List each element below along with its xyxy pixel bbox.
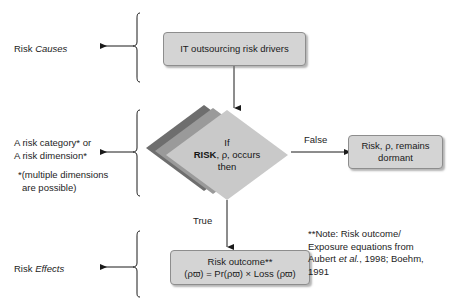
stage-label-category: A risk category* or A risk dimension*: [14, 136, 132, 162]
node-risk-dormant-label: Risk, ρ, remainsdormant: [361, 140, 429, 164]
node-decision-label: IfRISK, ρ, occursthen: [166, 110, 288, 200]
edge-label-false: False: [304, 134, 327, 146]
node-risk-dormant[interactable]: Risk, ρ, remainsdormant: [348, 135, 443, 169]
note-line3: Aubert et al., 1998; Boehm,: [308, 253, 448, 266]
note-line4: 1991: [308, 266, 448, 279]
node-risk-drivers[interactable]: IT outsourcing risk drivers: [163, 32, 306, 66]
node-risk-dormant-line2: dormant: [378, 152, 413, 163]
stage-label-effects-italic: Effects: [35, 263, 64, 274]
edge-label-true: True: [193, 215, 212, 227]
stage-label-effects-plain: Risk: [14, 263, 35, 274]
node-decision-text: IfRISK, ρ, occursthen: [194, 137, 261, 173]
node-risk-dormant-line1: Risk, ρ, remains: [361, 140, 429, 151]
stage-label-category-footnote: *(multiple dimensions are possible): [18, 168, 136, 194]
stage-label-category-line2: A risk dimension*: [14, 149, 132, 162]
stage-label-effects: Risk Effects: [14, 263, 64, 275]
stage-label-causes-italic: Causes: [35, 43, 67, 54]
node-decision-line2-rest: , ρ, occurs: [216, 149, 260, 160]
note-line3-post: , 1998; Boehm,: [359, 253, 423, 264]
brace-effects: [133, 231, 140, 297]
brace-causes: [133, 13, 140, 82]
node-decision-line1: If: [224, 137, 229, 148]
category-footnote-line1: *(multiple dimensions: [18, 168, 136, 181]
node-decision-bold: RISK: [194, 149, 217, 160]
node-risk-outcome-label: Risk outcome**(ρϖ) = Pr(ρϖ) × Loss (ρϖ): [184, 256, 295, 280]
note-line1: **Note: Risk outcome/: [308, 228, 448, 241]
risk-flow-diagram: Risk Causes A risk category* or A risk d…: [0, 0, 451, 307]
node-risk-outcome-line1: Risk outcome**: [208, 256, 273, 267]
stage-label-category-line1: A risk category* or: [14, 136, 132, 149]
note-annotation: **Note: Risk outcome/ Exposure equations…: [308, 228, 448, 278]
note-line3-pre: Aubert: [308, 253, 339, 264]
node-risk-outcome[interactable]: Risk outcome**(ρϖ) = Pr(ρϖ) × Loss (ρϖ): [170, 250, 310, 285]
note-line2: Exposure equations from: [308, 241, 448, 254]
node-risk-outcome-equation: (ρϖ) = Pr(ρϖ) × Loss (ρϖ): [184, 268, 295, 279]
stage-label-causes: Risk Causes: [14, 43, 67, 55]
stage-label-causes-plain: Risk: [14, 43, 35, 54]
category-footnote-line2: are possible): [18, 181, 136, 194]
node-risk-drivers-label: IT outsourcing risk drivers: [180, 43, 289, 55]
note-line3-italic: et al.: [339, 253, 360, 264]
node-decision-diamond-stack[interactable]: IfRISK, ρ, occursthen: [146, 103, 291, 201]
node-decision-line3: then: [218, 161, 237, 172]
